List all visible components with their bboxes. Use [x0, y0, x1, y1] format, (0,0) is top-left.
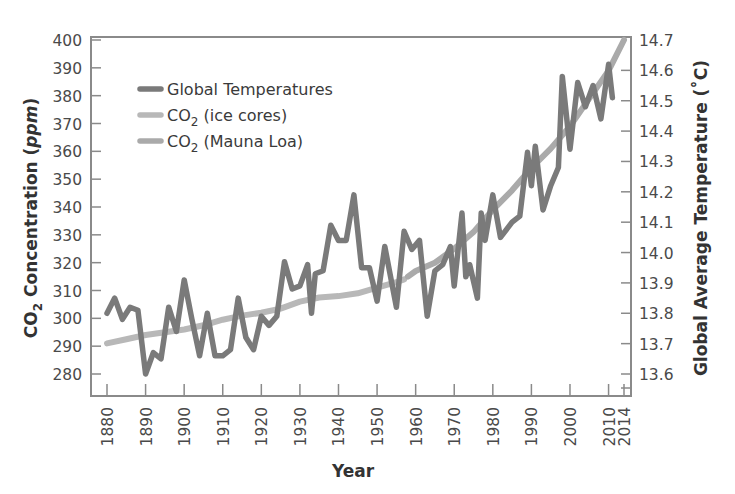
right-tick-label: 14.3 — [639, 153, 674, 171]
left-tick-label: 300 — [52, 310, 82, 328]
right-tick-label: 14.2 — [639, 184, 674, 202]
left-axis-title: CO2 Concentration (ppm) — [21, 98, 45, 338]
left-tick-label: 370 — [52, 116, 82, 134]
legend: Global TemperaturesCO2 (ice cores)CO2 (M… — [140, 80, 333, 155]
right-tick-label: 14.7 — [639, 32, 674, 50]
x-tick-label: 1990 — [523, 407, 541, 446]
legend-label: CO2 (ice cores) — [167, 106, 287, 129]
x-tick-label: 1940 — [330, 407, 348, 446]
co2-temperature-chart: 280290300310320330340350360370380390400 … — [0, 0, 735, 494]
x-tick-label: 1960 — [408, 407, 426, 446]
left-tick-label: 310 — [52, 283, 82, 301]
left-tick-label: 290 — [52, 338, 82, 356]
right-tick-label: 13.8 — [639, 305, 674, 323]
x-tick-label: 1930 — [292, 407, 310, 446]
right-tick-label: 13.6 — [639, 366, 674, 384]
legend-label: CO2 (Mauna Loa) — [167, 132, 303, 155]
x-tick-label: 1880 — [99, 407, 117, 446]
right-tick-label: 14.6 — [639, 62, 674, 80]
left-tick-label: 320 — [52, 255, 82, 273]
left-axis-ticks: 280290300310320330340350360370380390400 — [52, 32, 101, 384]
left-tick-label: 280 — [52, 366, 82, 384]
left-tick-label: 400 — [52, 32, 82, 50]
right-axis-ticks: 13.613.713.813.914.014.114.214.314.414.5… — [621, 32, 674, 388]
x-axis-ticks: 1880189019001910192019301940195019601970… — [99, 384, 634, 446]
x-axis-title: Year — [331, 461, 375, 481]
right-tick-label: 14.5 — [639, 93, 674, 111]
x-tick-label: 1890 — [138, 407, 156, 446]
left-tick-label: 330 — [52, 227, 82, 245]
left-tick-label: 380 — [52, 88, 82, 106]
x-tick-label: 2000 — [562, 407, 580, 446]
x-tick-label: 2014 — [616, 407, 634, 446]
legend-label: Global Temperatures — [167, 80, 333, 99]
x-tick-label: 1970 — [446, 407, 464, 446]
right-tick-label: 14.0 — [639, 245, 674, 263]
left-tick-label: 390 — [52, 60, 82, 78]
right-tick-label: 13.9 — [639, 275, 674, 293]
x-tick-label: 1950 — [369, 407, 387, 446]
left-tick-label: 340 — [52, 199, 82, 217]
x-tick-label: 1980 — [485, 407, 503, 446]
right-tick-label: 13.7 — [639, 336, 674, 354]
x-tick-label: 1920 — [253, 407, 271, 446]
x-tick-label: 1910 — [215, 407, 233, 446]
series-line-co2-mauna-loa- — [408, 40, 624, 277]
left-tick-label: 350 — [52, 171, 82, 189]
right-tick-label: 14.4 — [639, 123, 674, 141]
right-axis-title: Global Average Temperature (˚C) — [690, 60, 711, 376]
left-tick-label: 360 — [52, 143, 82, 161]
x-tick-label: 1900 — [176, 407, 194, 446]
right-tick-label: 14.1 — [639, 214, 674, 232]
